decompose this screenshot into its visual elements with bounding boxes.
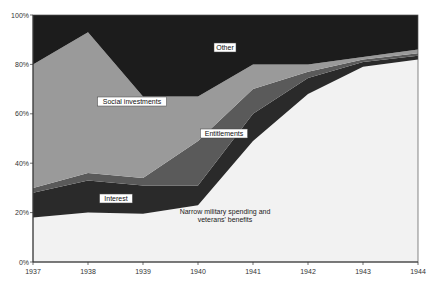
label-entitlements: Entitlements: [200, 129, 247, 138]
x-tick-label: 1941: [245, 268, 261, 275]
label-text: Other: [216, 44, 234, 51]
label-text: Entitlements: [205, 130, 244, 137]
label-text: Narrow military spending and: [180, 208, 271, 216]
y-tick-label: 20%: [15, 209, 29, 216]
label-text: Interest: [104, 195, 127, 202]
label-social-investments: Social investments: [98, 97, 167, 106]
x-tick-label: 1939: [135, 268, 151, 275]
y-tick-label: 60%: [15, 110, 29, 117]
y-tick-label: 100%: [11, 12, 29, 19]
label-text: veterans' benefits: [198, 216, 253, 223]
x-tick-label: 1938: [80, 268, 96, 275]
label-other: Other: [214, 43, 236, 52]
label-interest: Interest: [100, 194, 133, 203]
y-tick-label: 40%: [15, 160, 29, 167]
label-text: Social investments: [103, 98, 162, 105]
x-tick-label: 1937: [25, 268, 41, 275]
x-tick-label: 1943: [355, 268, 371, 275]
stacked-area-chart: 0%20%40%60%80%100%1937193819391940194119…: [0, 0, 432, 285]
x-tick-label: 1944: [410, 268, 426, 275]
y-tick-label: 0%: [19, 259, 29, 266]
x-tick-label: 1940: [190, 268, 206, 275]
y-tick-label: 80%: [15, 61, 29, 68]
x-tick-label: 1942: [300, 268, 316, 275]
